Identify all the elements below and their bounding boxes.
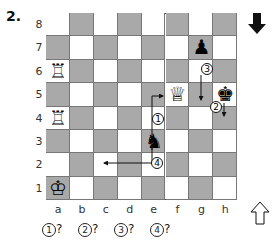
move-arrows: 1 2 3 4 xyxy=(0,0,274,242)
move-label-4: 4 xyxy=(154,158,160,168)
question-number: 2 xyxy=(78,223,92,237)
move-label-1: 1 xyxy=(155,114,161,124)
white-up-arrow-icon xyxy=(251,202,269,224)
question-3: 3? xyxy=(114,222,134,237)
question-number: 1 xyxy=(42,223,56,237)
question-2: 2? xyxy=(78,222,98,237)
move-label-3: 3 xyxy=(204,64,210,74)
black-to-move-arrow-icon xyxy=(248,13,266,34)
question-4: 4? xyxy=(150,222,170,237)
arrow-move-4 xyxy=(104,146,152,163)
question-1: 1? xyxy=(42,222,62,237)
question-number: 4 xyxy=(150,223,164,237)
question-number: 3 xyxy=(114,223,128,237)
move-label-2: 2 xyxy=(213,102,219,112)
